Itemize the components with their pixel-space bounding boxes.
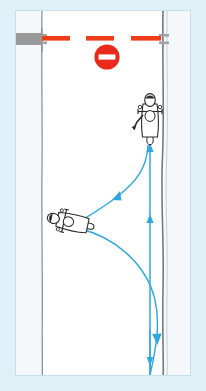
lower-mirror-right bbox=[60, 209, 64, 213]
right-verge bbox=[164, 11, 190, 375]
no-entry-sign bbox=[94, 44, 119, 69]
lower-mirror-left bbox=[56, 227, 60, 231]
bracket-right-lower bbox=[159, 42, 169, 45]
upper-mirror-right bbox=[158, 105, 161, 108]
barrier-segment-3 bbox=[131, 36, 161, 41]
barrier-segment-2 bbox=[86, 36, 114, 41]
upper-mirror-left bbox=[138, 105, 141, 108]
no-entry-bar bbox=[99, 54, 116, 59]
upper-headlamp bbox=[145, 111, 155, 122]
notice-board bbox=[15, 33, 42, 45]
road-scene-svg bbox=[0, 0, 206, 391]
upper-helmet bbox=[145, 94, 156, 107]
left-verge bbox=[16, 11, 42, 375]
barrier-segment-1 bbox=[41, 36, 70, 41]
diagram-canvas bbox=[0, 0, 206, 391]
road-edge-left bbox=[42, 11, 43, 375]
